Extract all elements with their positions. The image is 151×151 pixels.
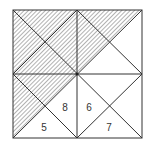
label-5: 5 (41, 122, 47, 133)
center-point (76, 73, 79, 76)
square-diagram: 8 6 5 7 (0, 0, 151, 151)
label-8: 8 (62, 102, 68, 113)
label-6: 6 (86, 102, 92, 113)
label-7: 7 (106, 122, 112, 133)
